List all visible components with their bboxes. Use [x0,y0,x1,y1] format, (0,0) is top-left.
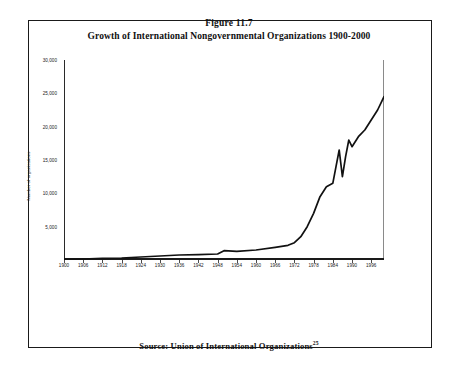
x-axis-tick-labels: 1900190619121918192419301936194219481954… [64,263,384,277]
x-axis-tick-label: 1930 [155,263,165,268]
y-axis-tick-label: 25,000 [43,91,57,96]
x-axis-tick-label: 1984 [328,263,338,268]
y-axis-tick-labels: 5,00010,00015,00020,00025,00030,000 [20,60,60,260]
y-axis-tick-label: 10,000 [43,191,57,196]
x-axis-tick-label: 1900 [59,263,69,268]
x-axis-tick-label: 1966 [270,263,280,268]
figure-title: Growth of International Nongovernmental … [0,30,458,42]
x-axis-tick-label: 1912 [97,263,107,268]
x-axis-tick-label: 1936 [174,263,184,268]
x-axis-tick-label: 1990 [347,263,357,268]
source-text: Source: Union of International Organizat… [139,341,313,351]
plot-box [64,60,384,260]
x-axis-tick-label: 1924 [136,263,146,268]
source-note: Source: Union of International Organizat… [0,340,458,351]
y-axis-tick-label: 20,000 [43,124,57,129]
x-axis-tick-label: 1996 [366,263,376,268]
x-axis-tick-label: 1978 [308,263,318,268]
figure-caption: Figure 11.7 Growth of International Nong… [0,17,458,42]
y-axis-tick-label: 5,000 [45,224,57,229]
x-axis-tick-label: 1960 [251,263,261,268]
x-axis-tick-label: 1954 [232,263,242,268]
data-series-line [64,60,384,260]
source-footnote-marker: 25 [313,340,319,346]
y-axis-tick-label: 30,000 [43,58,57,63]
x-axis-tick-label: 1972 [289,263,299,268]
y-axis-tick-label: 15,000 [43,158,57,163]
chart-area: Number of organizations 5,00010,00015,00… [20,60,386,292]
x-axis-tick-label: 1948 [212,263,222,268]
x-axis-tick-label: 1906 [78,263,88,268]
figure-number: Figure 11.7 [0,17,458,29]
x-axis-tick-label: 1942 [193,263,203,268]
x-axis-tick-label: 1918 [116,263,126,268]
